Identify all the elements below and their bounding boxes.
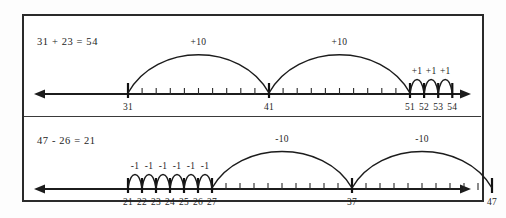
tick-label: 52	[419, 102, 429, 112]
jump-label: -1	[173, 161, 182, 171]
tick-label: 54	[447, 102, 457, 112]
subtraction-number-line: 212223242526273747-1-1-1-1-1-1-10-10	[24, 117, 481, 203]
jump-label: -10	[415, 134, 429, 144]
jump-arc	[438, 80, 452, 93]
jump-arc	[198, 175, 212, 188]
jump-label: -1	[201, 161, 210, 171]
tick-label: 37	[347, 197, 357, 207]
jump-arc	[424, 80, 438, 93]
jump-arc	[212, 152, 352, 188]
left-arrow-icon	[34, 89, 45, 98]
jump-label: -1	[187, 161, 196, 171]
tick-label: 22	[137, 197, 147, 207]
jump-arc	[170, 175, 184, 188]
jump-arc	[269, 55, 410, 93]
jump-arc	[142, 175, 156, 188]
jump-label: +10	[332, 37, 348, 47]
tick-label: 53	[433, 102, 443, 112]
left-arrow-icon	[34, 184, 45, 193]
right-arrow-icon	[460, 184, 471, 193]
diagram-frame: 31 + 23 = 54 314151525354+10+10+1+1+1 47…	[22, 14, 484, 202]
jump-label: +1	[426, 66, 437, 76]
jump-arc	[184, 175, 198, 188]
tick-label: 21	[123, 197, 133, 207]
jump-label: -1	[131, 161, 140, 171]
tick-label: 23	[151, 197, 161, 207]
tick-label: 51	[405, 102, 415, 112]
jump-arc	[156, 175, 170, 188]
addition-panel: 31 + 23 = 54 314151525354+10+10+1+1+1	[24, 16, 481, 116]
tick-label: 27	[207, 197, 217, 207]
tick-label: 24	[165, 197, 175, 207]
tick-label: 47	[487, 197, 497, 207]
jump-label: +1	[440, 66, 451, 76]
tick-label: 31	[123, 102, 133, 112]
right-arrow-icon	[460, 89, 471, 98]
jump-arc	[128, 55, 269, 93]
tick-label: 25	[179, 197, 189, 207]
jump-label: -1	[145, 161, 154, 171]
addition-number-line: 314151525354+10+10+1+1+1	[24, 16, 481, 116]
jump-label: -1	[159, 161, 168, 171]
worksheet-canvas: 31 + 23 = 54 314151525354+10+10+1+1+1 47…	[0, 0, 506, 218]
jump-label: +1	[412, 66, 423, 76]
subtraction-panel: 47 - 26 = 21 212223242526273747-1-1-1-1-…	[24, 117, 481, 203]
tick-label: 26	[193, 197, 203, 207]
jump-arc	[128, 175, 142, 188]
jump-arc	[410, 80, 424, 93]
tick-label: 41	[264, 102, 274, 112]
jump-label: -10	[275, 134, 289, 144]
jump-arc	[352, 152, 492, 188]
jump-label: +10	[191, 37, 207, 47]
